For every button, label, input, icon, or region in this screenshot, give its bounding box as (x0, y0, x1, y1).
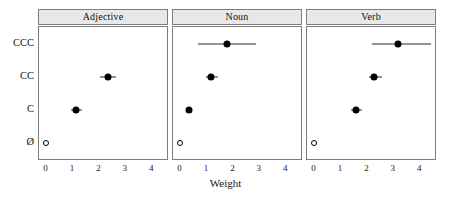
x-axis-tick-label: 1 (338, 164, 343, 173)
y-axis-tick-mark (306, 77, 307, 78)
y-axis-tick-mark (38, 110, 39, 111)
dot-plot-figure: CCCCCCØ AdjectiveNounVerb Weight 0123401… (0, 0, 451, 200)
y-axis-tick-label: CCC (13, 37, 34, 48)
x-axis-tick-label: 0 (43, 164, 48, 173)
y-axis-tick-mark (38, 143, 39, 144)
y-axis-tick-mark (172, 110, 173, 111)
data-point-marker (352, 107, 359, 114)
x-axis-tick-mark (285, 159, 286, 160)
panel-strip-header: Verb (306, 9, 436, 25)
y-axis-tick-label: CC (20, 71, 34, 82)
panel-strip-header: Adjective (38, 9, 168, 25)
reference-point-marker (43, 140, 49, 146)
plot-area (38, 26, 168, 160)
y-axis-tick-label: Ø (26, 137, 34, 148)
panel-title: Adjective (83, 12, 124, 22)
y-axis-tick-mark (172, 77, 173, 78)
x-axis-tick-label: 3 (123, 164, 128, 173)
facet-panel: Noun (172, 9, 302, 160)
y-axis-labels: CCCCCCØ (0, 26, 34, 160)
x-axis-tick-mark (232, 159, 233, 160)
y-axis-tick-mark (172, 44, 173, 45)
y-axis-tick-mark (172, 143, 173, 144)
x-axis-tick-label: 4 (417, 164, 422, 173)
reference-point-marker (177, 140, 183, 146)
x-axis-tick-mark (419, 159, 420, 160)
x-axis-tick-label: 1 (70, 164, 75, 173)
data-point-marker (185, 107, 192, 114)
y-axis-tick-mark (306, 44, 307, 45)
x-axis-tick-label: 0 (311, 164, 316, 173)
data-point-marker (72, 107, 79, 114)
x-axis-tick-label: 2 (364, 164, 369, 173)
data-point-marker (104, 73, 111, 80)
x-axis-tick-label: 4 (283, 164, 288, 173)
x-axis-tick-mark (340, 159, 341, 160)
x-axis-tick-mark (98, 159, 99, 160)
x-axis-label: Weight (0, 178, 451, 189)
x-axis-tick-label: 1 (204, 164, 209, 173)
x-axis-tick-label: 4 (149, 164, 154, 173)
x-axis-tick-mark (151, 159, 152, 160)
x-axis-tick-label: 2 (96, 164, 101, 173)
x-axis-tick-mark (366, 159, 367, 160)
data-point-marker (371, 73, 378, 80)
panel-strip-header: Noun (172, 9, 302, 25)
plot-area (172, 26, 302, 160)
x-axis-tick-mark (393, 159, 394, 160)
data-point-marker (395, 40, 402, 47)
facet-panel: Adjective (38, 9, 168, 160)
x-axis-tick-mark (125, 159, 126, 160)
panel-title: Verb (361, 12, 381, 22)
y-axis-tick-mark (38, 44, 39, 45)
plot-area (306, 26, 436, 160)
y-axis-tick-label: C (27, 104, 34, 115)
x-axis-tick-mark (72, 159, 73, 160)
x-axis-tick-label: 2 (230, 164, 235, 173)
panel-title: Noun (225, 12, 248, 22)
x-axis-tick-label: 3 (257, 164, 262, 173)
x-axis-tick-mark (46, 159, 47, 160)
facet-panel: Verb (306, 9, 436, 160)
x-axis-tick-mark (259, 159, 260, 160)
y-axis-tick-mark (38, 77, 39, 78)
reference-point-marker (311, 140, 317, 146)
data-point-marker (224, 40, 231, 47)
y-axis-tick-mark (306, 110, 307, 111)
data-point-marker (208, 73, 215, 80)
x-axis-tick-label: 0 (177, 164, 182, 173)
x-axis-tick-label: 3 (391, 164, 396, 173)
x-axis-tick-mark (314, 159, 315, 160)
x-axis-tick-mark (206, 159, 207, 160)
x-axis-tick-mark (180, 159, 181, 160)
y-axis-tick-mark (306, 143, 307, 144)
